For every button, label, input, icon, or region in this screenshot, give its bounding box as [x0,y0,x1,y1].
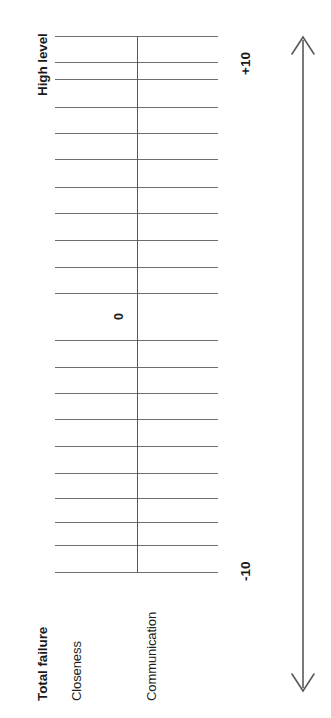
dimension-label-closeness: Closeness [70,641,83,701]
scale-label-max: +10 [239,52,253,75]
double-headed-arrow [278,28,328,700]
scale-label-min: -10 [239,561,253,581]
dimension-label-communication: Communication [145,612,158,701]
scale-label-mid: 0 [113,313,126,320]
axis-rule [137,36,138,573]
anchor-label-high: High level [36,33,50,96]
rating-scale-figure: High level Total failure Closeness Commu… [0,0,331,718]
anchor-label-low: Total failure [36,627,50,701]
